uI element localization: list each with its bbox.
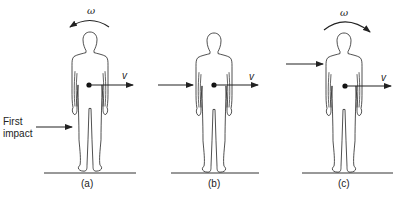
velocity-label-a: v xyxy=(122,70,127,81)
panel-b xyxy=(158,33,259,173)
impact-diagram xyxy=(0,0,394,197)
person-figure-b xyxy=(196,33,232,172)
omega-label-a: ω xyxy=(87,5,95,16)
velocity-label-b: v xyxy=(249,71,254,82)
panel-a xyxy=(36,21,136,174)
panel-c xyxy=(286,22,393,173)
rotation-arrow-ccw-icon xyxy=(70,21,109,28)
caption-a: (a) xyxy=(81,178,93,189)
person-figure-a xyxy=(72,32,108,171)
caption-b: (b) xyxy=(208,178,220,189)
velocity-label-c: v xyxy=(381,72,386,83)
person-figure-c xyxy=(326,33,362,172)
rotation-arrow-cw-icon xyxy=(324,22,370,32)
caption-c: (c) xyxy=(338,178,350,189)
first-impact-label-line1: First xyxy=(3,116,22,127)
first-impact-label-line2: impact xyxy=(3,128,32,139)
omega-label-c: ω xyxy=(340,7,348,18)
